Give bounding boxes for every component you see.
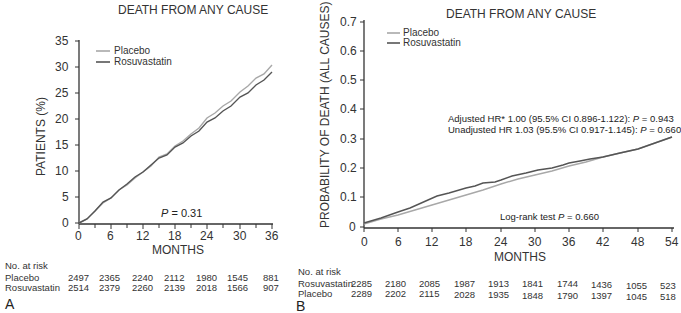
- chart-b-adjusted-hr: Adjusted HR* 1.00 (95.5% CI 0.896-1.122)…: [448, 113, 674, 124]
- chart-b-xtick: 54: [665, 235, 678, 249]
- chart-b-ytick: 0.7: [340, 15, 357, 29]
- chart-b-xtick: 42: [596, 235, 609, 249]
- risk-b-cell: 1055: [626, 280, 647, 291]
- risk-b-cell: 1841: [522, 278, 543, 289]
- chart-b-ytick: 0.4: [340, 102, 357, 116]
- chart-b-ytick: 0.6: [340, 44, 357, 58]
- chart-b-ytick: 0.2: [340, 161, 357, 175]
- risk-b-cell: 1397: [591, 290, 612, 301]
- chart-b-unadjusted-hr: Unadjusted HR 1.03 (95.5% CI 0.917-1.145…: [448, 124, 681, 135]
- risk-b-cell: 1790: [557, 290, 578, 301]
- risk-b-header: No. at risk: [298, 266, 341, 277]
- panel-label-b: B: [296, 298, 305, 313]
- risk-b-cell: 2115: [419, 288, 439, 299]
- chart-b-ytick: 0: [349, 220, 356, 234]
- chart-b-xtick: 18: [459, 235, 472, 249]
- risk-b-cell: 518: [660, 291, 676, 302]
- risk-b-cell: 1913: [488, 278, 509, 289]
- chart-b-xtick: 36: [562, 235, 575, 249]
- risk-b-cell: 1744: [557, 278, 578, 289]
- chart-b-xtick: 0: [361, 235, 368, 249]
- risk-b-cell: 1848: [522, 290, 543, 301]
- chart-b-ytick: 0.3: [340, 132, 357, 146]
- risk-b-cell: 1436: [591, 279, 612, 290]
- chart-b-logrank: Log-rank test P = 0.660: [500, 211, 599, 222]
- chart-b-ytick: 0.1: [340, 190, 357, 204]
- chart-b-xtick: 12: [425, 235, 438, 249]
- chart-b-ytick: 0.5: [340, 73, 357, 87]
- risk-b-cell: 1987: [454, 278, 475, 289]
- chart-b-y-label: PROBABILITY OF DEATH (ALL CAUSES): [318, 2, 332, 229]
- chart-b-xtick: 48: [631, 235, 644, 249]
- legend-b-rosuvastatin: Rosuvastatin: [403, 37, 461, 48]
- risk-b-cell: 523: [660, 280, 676, 291]
- chart-b-x-label: MONTHS: [494, 250, 546, 264]
- risk-b-cell: 2289: [351, 288, 372, 299]
- chart-b-xtick: 30: [528, 235, 541, 249]
- chart-b-xtick: 6: [395, 235, 402, 249]
- chart-b-xtick: 24: [494, 235, 507, 249]
- risk-b-cell: 1045: [626, 291, 647, 302]
- risk-b-cell: 2028: [454, 289, 475, 300]
- risk-b-cell: 2202: [385, 288, 406, 299]
- risk-b-cell: 1935: [488, 289, 509, 300]
